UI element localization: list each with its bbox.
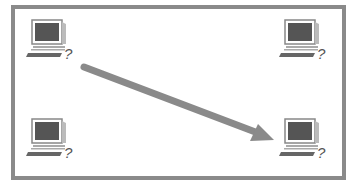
computer-top-right: ? bbox=[277, 18, 331, 64]
computer-icon: ? bbox=[277, 18, 331, 64]
computer-icon: ? bbox=[24, 18, 78, 64]
computer-top-left: ? bbox=[24, 18, 78, 64]
svg-text:?: ? bbox=[64, 45, 73, 62]
computer-bottom-right: ? bbox=[277, 117, 331, 163]
svg-text:?: ? bbox=[317, 144, 326, 161]
computer-bottom-left: ? bbox=[24, 117, 78, 163]
computer-icon: ? bbox=[277, 117, 331, 163]
svg-text:?: ? bbox=[317, 45, 326, 62]
svg-text:?: ? bbox=[64, 144, 73, 161]
computer-icon: ? bbox=[24, 117, 78, 163]
